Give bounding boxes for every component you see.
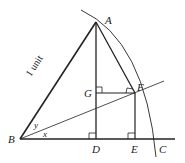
label-c: C xyxy=(159,144,166,155)
label-e: E xyxy=(131,144,138,155)
label-g: G xyxy=(84,88,92,99)
right-angle-g xyxy=(96,87,102,93)
right-angle-f xyxy=(126,88,133,93)
label-f: F xyxy=(137,82,144,93)
geometry-figure xyxy=(0,0,185,163)
label-b: B xyxy=(8,134,15,145)
line-ba xyxy=(20,22,96,139)
angle-y-label: y xyxy=(34,121,38,130)
right-angle-d xyxy=(89,133,96,139)
arc-ac xyxy=(81,10,156,157)
angle-x-label: x xyxy=(43,130,47,139)
right-angle-e xyxy=(128,133,135,139)
label-a: A xyxy=(105,15,112,26)
label-d: D xyxy=(92,144,100,155)
